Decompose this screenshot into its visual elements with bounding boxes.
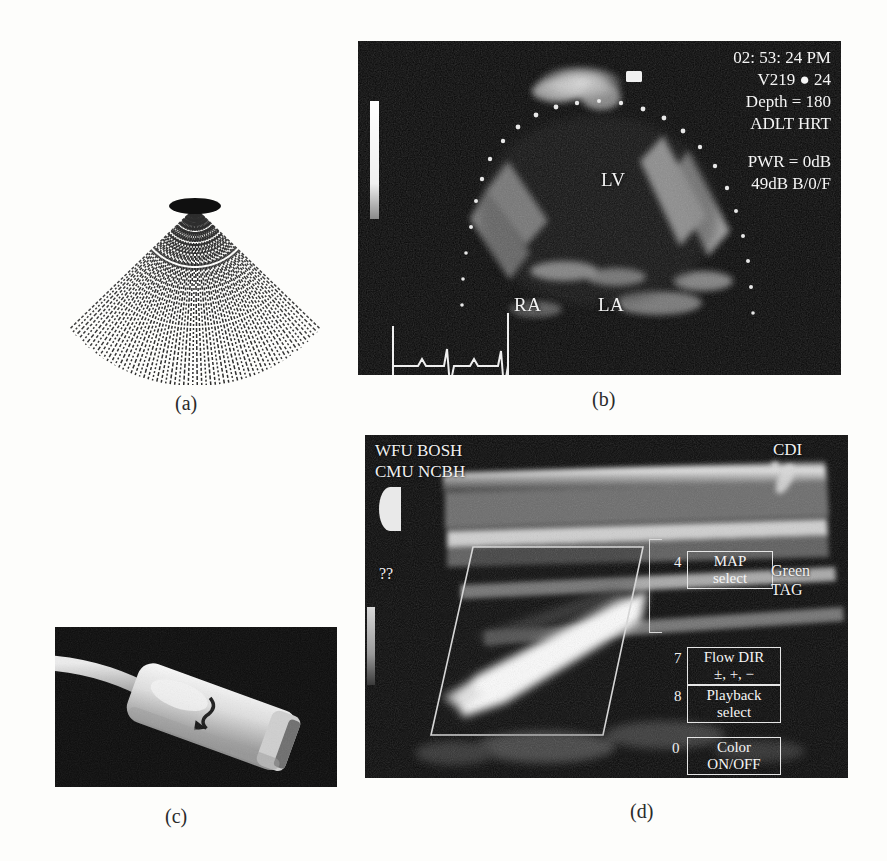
menu-playback-select[interactable]: Playback select <box>687 685 781 723</box>
caption-d: (d) <box>630 800 653 823</box>
scanner-overlay-top: 02: 53: 24 PM V219 ● 24 Depth = 180 ADLT… <box>733 47 831 135</box>
menu-number-7: 7 <box>674 650 682 667</box>
orientation-marker-icon <box>379 487 401 531</box>
menu-color-line1: Color <box>693 739 775 756</box>
menu-playback-line1: Playback <box>693 687 775 704</box>
transducer-photo-image <box>55 627 337 787</box>
caption-c: (c) <box>165 805 187 828</box>
doppler-bmode-image <box>365 435 848 778</box>
anatomy-label-ra: RA <box>514 294 541 316</box>
panel-c-transducer-photo <box>55 627 337 787</box>
institution-header: WFU BOSH CMU NCBH <box>375 440 465 482</box>
menu-color-line2: ON/OFF <box>693 756 775 773</box>
overlay-gain: 49dB B/0/F <box>748 173 831 195</box>
menu-map-select-line1: MAP <box>693 553 767 570</box>
overlay-probe-id: V219 ● 24 <box>733 69 831 91</box>
unknown-value-marker: ?? <box>379 563 393 584</box>
overlay-preset: ADLT HRT <box>733 113 831 135</box>
transducer-apex <box>169 198 221 214</box>
overlay-depth: Depth = 180 <box>733 91 831 113</box>
green-tag-label: Green TAG <box>771 561 810 599</box>
menu-flow-dir-line2: ±, +, − <box>693 666 775 683</box>
panel-d-color-doppler: WFU BOSH CMU NCBH CDI ?? 4 MAP select Gr… <box>365 435 848 778</box>
menu-number-0: 0 <box>672 740 680 757</box>
cdi-label: CDI <box>773 439 802 460</box>
scanline-group <box>70 208 321 385</box>
scanline-fan-svg <box>40 190 350 385</box>
caption-b: (b) <box>592 388 615 411</box>
panel-b-echocardiogram: 02: 53: 24 PM V219 ● 24 Depth = 180 ADLT… <box>358 41 841 375</box>
caption-a: (a) <box>175 392 197 415</box>
menu-playback-line2: select <box>693 704 775 721</box>
depth-gain-bar <box>370 101 379 219</box>
menu-color-onoff[interactable]: Color ON/OFF <box>687 737 781 775</box>
menu-number-8: 8 <box>674 688 682 705</box>
overlay-power: PWR = 0dB <box>748 151 831 173</box>
doppler-gain-bar <box>367 607 375 685</box>
menu-flow-dir-line1: Flow DIR <box>693 649 775 666</box>
menu-map-select[interactable]: MAP select <box>687 551 773 589</box>
menu-map-select-line2: select <box>693 570 767 587</box>
anatomy-label-la: LA <box>598 294 624 316</box>
map-select-bracket <box>649 539 662 633</box>
menu-number-4: 4 <box>674 554 682 571</box>
green-tag-line1: Green <box>771 561 810 580</box>
menu-flow-dir[interactable]: Flow DIR ±, +, − <box>687 647 781 685</box>
anatomy-label-lv: LV <box>601 169 626 191</box>
green-tag-line2: TAG <box>771 580 810 599</box>
institution-line-2: CMU NCBH <box>375 461 465 482</box>
institution-line-1: WFU BOSH <box>375 440 465 461</box>
scanner-overlay-power: PWR = 0dB 49dB B/0/F <box>748 151 831 195</box>
overlay-timestamp: 02: 53: 24 PM <box>733 47 831 69</box>
panel-a-scanline-diagram <box>40 190 350 385</box>
